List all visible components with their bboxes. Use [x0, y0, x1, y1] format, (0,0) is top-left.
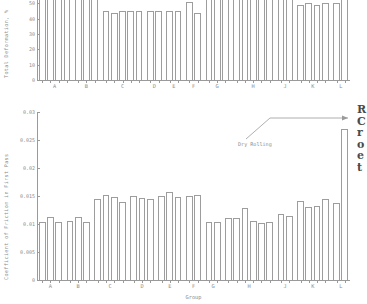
x-tick-mark: [261, 280, 262, 283]
x-tick-mark: [337, 80, 338, 83]
bar: [278, 0, 285, 80]
x-tick-mark: [139, 80, 140, 83]
bar: [305, 207, 312, 280]
bar: [136, 11, 143, 80]
x-axis-title-bottom: Group: [186, 294, 202, 300]
bar: [297, 5, 304, 80]
x-tick-mark: [289, 80, 290, 83]
x-tick-label-b: B: [85, 84, 88, 89]
bar: [103, 11, 110, 80]
x-tick-mark: [114, 80, 115, 83]
bar: [64, 0, 71, 80]
x-tick-mark: [42, 280, 43, 283]
bar: [206, 0, 213, 80]
x-tick-mark: [150, 80, 151, 83]
x-tick-mark: [261, 80, 262, 83]
bar: [130, 196, 137, 280]
x-tick-mark: [162, 280, 163, 283]
bar: [322, 3, 329, 80]
x-axis-line: [37, 280, 350, 281]
bar: [206, 222, 213, 280]
y-tick-label: 30: [29, 32, 35, 37]
bar: [214, 222, 221, 280]
chart-total-deformation: Total Deformation, % 0102030405060ABCDEF…: [0, 0, 367, 100]
bar: [186, 196, 193, 280]
bar: [233, 218, 240, 280]
x-tick-mark: [245, 80, 246, 83]
y-tick-label: 0.025: [20, 138, 35, 143]
x-tick-mark: [59, 80, 60, 83]
bar: [266, 222, 273, 280]
bar: [55, 0, 62, 80]
bar: [322, 199, 329, 280]
x-tick-label-j: J: [284, 84, 287, 89]
x-tick-mark: [253, 280, 254, 283]
x-tick-mark: [281, 280, 282, 283]
bar: [250, 0, 257, 80]
x-tick-mark: [225, 80, 226, 83]
bar: [225, 218, 232, 280]
bar: [233, 0, 240, 80]
bar: [286, 0, 293, 80]
y-tick-mark: [37, 280, 40, 281]
x-tick-mark: [209, 280, 210, 283]
bar: [341, 0, 348, 80]
bar: [194, 195, 201, 280]
y-tick-mark: [37, 112, 40, 113]
side-note-line: e: [357, 150, 366, 162]
bar: [341, 129, 348, 280]
x-tick-label-a: A: [53, 84, 56, 89]
bar: [139, 198, 146, 280]
bar: [266, 0, 273, 80]
x-tick-mark: [150, 280, 151, 283]
x-tick-mark: [209, 80, 210, 83]
y-tick-label: 0.02: [23, 166, 35, 171]
y-tick-label: 0.03: [23, 110, 35, 115]
x-tick-mark: [95, 80, 96, 83]
bar: [314, 5, 321, 80]
y-tick-mark: [37, 140, 40, 141]
y-tick-label: 0: [32, 78, 35, 83]
x-tick-label-k: K: [311, 284, 314, 289]
bar: [111, 13, 118, 80]
x-tick-label-c: C: [121, 84, 124, 89]
side-note-text: RCroet: [357, 104, 366, 173]
x-tick-mark: [345, 80, 346, 83]
x-tick-mark: [337, 280, 338, 283]
y-tick-label: 0: [32, 278, 35, 283]
bar: [94, 199, 101, 280]
bar: [242, 208, 249, 280]
x-tick-mark: [289, 280, 290, 283]
bar: [194, 13, 201, 80]
bar: [91, 0, 98, 80]
bar: [67, 221, 74, 280]
bar: [175, 197, 182, 280]
bar: [75, 217, 82, 280]
bar: [111, 197, 118, 280]
x-tick-mark: [281, 80, 282, 83]
x-tick-label-h: H: [252, 84, 255, 89]
y-tick-mark: [37, 168, 40, 169]
x-tick-mark: [237, 280, 238, 283]
x-tick-label-e: E: [168, 284, 171, 289]
x-tick-label-f: F: [192, 84, 195, 89]
x-tick-label-a: A: [49, 284, 52, 289]
bar: [250, 221, 257, 280]
bar: [83, 0, 90, 80]
x-tick-mark: [245, 280, 246, 283]
x-tick-mark: [228, 280, 229, 283]
x-tick-mark: [178, 80, 179, 83]
x-tick-mark: [217, 280, 218, 283]
x-tick-mark: [270, 80, 271, 83]
y-tick-label: 10: [29, 62, 35, 67]
x-tick-mark: [301, 80, 302, 83]
bar: [83, 222, 90, 280]
x-tick-mark: [198, 80, 199, 83]
x-tick-mark: [106, 280, 107, 283]
bar: [305, 3, 312, 80]
bar: [103, 195, 110, 280]
bar: [147, 11, 154, 80]
bar: [155, 11, 162, 80]
bar: [186, 2, 193, 80]
x-tick-mark: [42, 80, 43, 83]
